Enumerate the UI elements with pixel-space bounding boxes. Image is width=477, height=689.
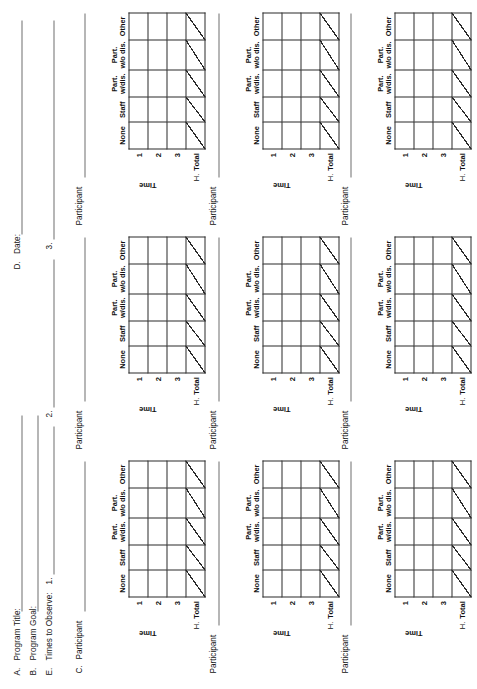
observation-cell[interactable]	[129, 346, 148, 372]
total-cell[interactable]	[452, 97, 471, 122]
observation-cell[interactable]	[433, 461, 452, 488]
observation-cell[interactable]	[148, 570, 167, 596]
total-cell[interactable]	[186, 545, 205, 570]
observation-cell[interactable]	[395, 570, 414, 596]
total-cell[interactable]	[320, 70, 339, 97]
total-cell[interactable]	[320, 97, 339, 122]
total-cell[interactable]	[320, 570, 339, 596]
observation-cell[interactable]	[129, 518, 148, 545]
observation-cell[interactable]	[263, 545, 282, 570]
observation-cell[interactable]	[282, 263, 301, 293]
observation-cell[interactable]	[414, 518, 433, 545]
observation-cell[interactable]	[167, 461, 186, 488]
observation-cell[interactable]	[129, 70, 148, 97]
observation-cell[interactable]	[148, 461, 167, 488]
observation-cell[interactable]	[263, 122, 282, 148]
field-program-goal-rule[interactable]	[37, 415, 38, 611]
total-cell[interactable]	[320, 487, 339, 517]
observation-cell[interactable]	[148, 122, 167, 148]
observation-cell[interactable]	[167, 237, 186, 264]
times-slot-3-rule[interactable]	[53, 20, 54, 239]
observation-cell[interactable]	[129, 545, 148, 570]
total-cell[interactable]	[186, 13, 205, 40]
observation-cell[interactable]	[433, 263, 452, 293]
observation-cell[interactable]	[148, 97, 167, 122]
observation-cell[interactable]	[148, 518, 167, 545]
observation-cell[interactable]	[395, 97, 414, 122]
total-cell[interactable]	[452, 70, 471, 97]
observation-cell[interactable]	[414, 39, 433, 69]
total-cell[interactable]	[452, 294, 471, 321]
total-cell[interactable]	[452, 122, 471, 148]
observation-cell[interactable]	[148, 39, 167, 69]
observation-cell[interactable]	[167, 122, 186, 148]
observation-cell[interactable]	[301, 13, 320, 40]
observation-cell[interactable]	[301, 461, 320, 488]
observation-cell[interactable]	[263, 39, 282, 69]
observation-cell[interactable]	[263, 487, 282, 517]
participant-name-rule[interactable]	[218, 237, 219, 401]
total-cell[interactable]	[320, 321, 339, 346]
observation-cell[interactable]	[263, 461, 282, 488]
total-cell[interactable]	[452, 263, 471, 293]
participant-name-rule[interactable]	[218, 461, 219, 625]
observation-cell[interactable]	[433, 321, 452, 346]
observation-cell[interactable]	[263, 570, 282, 596]
observation-cell[interactable]	[263, 13, 282, 40]
observation-cell[interactable]	[263, 321, 282, 346]
total-cell[interactable]	[186, 487, 205, 517]
observation-cell[interactable]	[395, 461, 414, 488]
observation-cell[interactable]	[263, 518, 282, 545]
observation-cell[interactable]	[129, 13, 148, 40]
observation-cell[interactable]	[433, 518, 452, 545]
total-cell[interactable]	[452, 545, 471, 570]
observation-cell[interactable]	[301, 570, 320, 596]
observation-cell[interactable]	[282, 39, 301, 69]
observation-cell[interactable]	[395, 346, 414, 372]
observation-cell[interactable]	[167, 545, 186, 570]
observation-cell[interactable]	[395, 70, 414, 97]
total-cell[interactable]	[320, 237, 339, 264]
observation-cell[interactable]	[282, 570, 301, 596]
observation-cell[interactable]	[263, 237, 282, 264]
observation-cell[interactable]	[282, 122, 301, 148]
observation-cell[interactable]	[129, 39, 148, 69]
observation-cell[interactable]	[433, 487, 452, 517]
observation-cell[interactable]	[395, 487, 414, 517]
observation-cell[interactable]	[414, 321, 433, 346]
total-cell[interactable]	[186, 70, 205, 97]
observation-cell[interactable]	[263, 263, 282, 293]
observation-cell[interactable]	[301, 487, 320, 517]
observation-cell[interactable]	[282, 545, 301, 570]
participant-name-rule[interactable]	[350, 461, 351, 625]
observation-cell[interactable]	[282, 346, 301, 372]
observation-cell[interactable]	[433, 97, 452, 122]
observation-cell[interactable]	[301, 237, 320, 264]
observation-cell[interactable]	[263, 70, 282, 97]
observation-cell[interactable]	[414, 122, 433, 148]
observation-cell[interactable]	[129, 321, 148, 346]
total-cell[interactable]	[186, 518, 205, 545]
observation-cell[interactable]	[167, 487, 186, 517]
observation-cell[interactable]	[167, 294, 186, 321]
observation-cell[interactable]	[129, 461, 148, 488]
observation-cell[interactable]	[282, 97, 301, 122]
total-cell[interactable]	[186, 461, 205, 488]
total-cell[interactable]	[320, 545, 339, 570]
observation-cell[interactable]	[433, 39, 452, 69]
observation-cell[interactable]	[414, 487, 433, 517]
observation-cell[interactable]	[395, 39, 414, 69]
total-cell[interactable]	[186, 263, 205, 293]
total-cell[interactable]	[452, 39, 471, 69]
observation-cell[interactable]	[282, 321, 301, 346]
observation-cell[interactable]	[282, 237, 301, 264]
observation-cell[interactable]	[433, 570, 452, 596]
observation-cell[interactable]	[263, 97, 282, 122]
observation-cell[interactable]	[301, 346, 320, 372]
times-slot-2-rule[interactable]	[53, 259, 54, 407]
observation-cell[interactable]	[433, 545, 452, 570]
observation-cell[interactable]	[129, 122, 148, 148]
observation-cell[interactable]	[433, 346, 452, 372]
observation-cell[interactable]	[301, 263, 320, 293]
observation-cell[interactable]	[148, 487, 167, 517]
